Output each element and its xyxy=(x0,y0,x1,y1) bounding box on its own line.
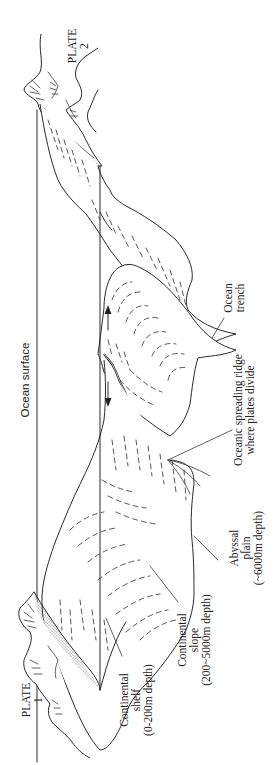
ocean-surface-label: Ocean surface xyxy=(19,343,31,418)
ridge-leader-line xyxy=(168,430,232,460)
svg-text:trench: trench xyxy=(234,283,246,312)
svg-text:Ocean: Ocean xyxy=(222,283,234,313)
spreading-ridge-label: Oceanic spreading ridge where plates div… xyxy=(232,354,257,466)
svg-text:(200~5000m depth): (200~5000m depth) xyxy=(200,594,213,686)
svg-text:shelf: shelf xyxy=(130,689,142,712)
svg-text:where plates divide: where plates divide xyxy=(244,365,257,454)
ocean-floor-diagram: PLATE 2 PLATE 1 Ocean surface Continenta… xyxy=(0,0,277,765)
svg-text:2: 2 xyxy=(78,43,90,49)
abyssal-leader-line xyxy=(194,536,218,560)
svg-text:(0-200m depth): (0-200m depth) xyxy=(142,664,155,736)
svg-text:1: 1 xyxy=(32,697,44,703)
abyssal-plain-label: Abyssal plain (~6000m depth) xyxy=(228,511,265,585)
svg-text:Continental: Continental xyxy=(118,673,130,727)
svg-text:PLATE: PLATE xyxy=(20,683,32,718)
svg-text:Continental: Continental xyxy=(176,613,188,667)
ocean-trench-label: Ocean trench xyxy=(222,283,246,313)
svg-text:PLATE: PLATE xyxy=(66,29,78,64)
svg-text:(~6000m depth): (~6000m depth) xyxy=(252,511,265,585)
